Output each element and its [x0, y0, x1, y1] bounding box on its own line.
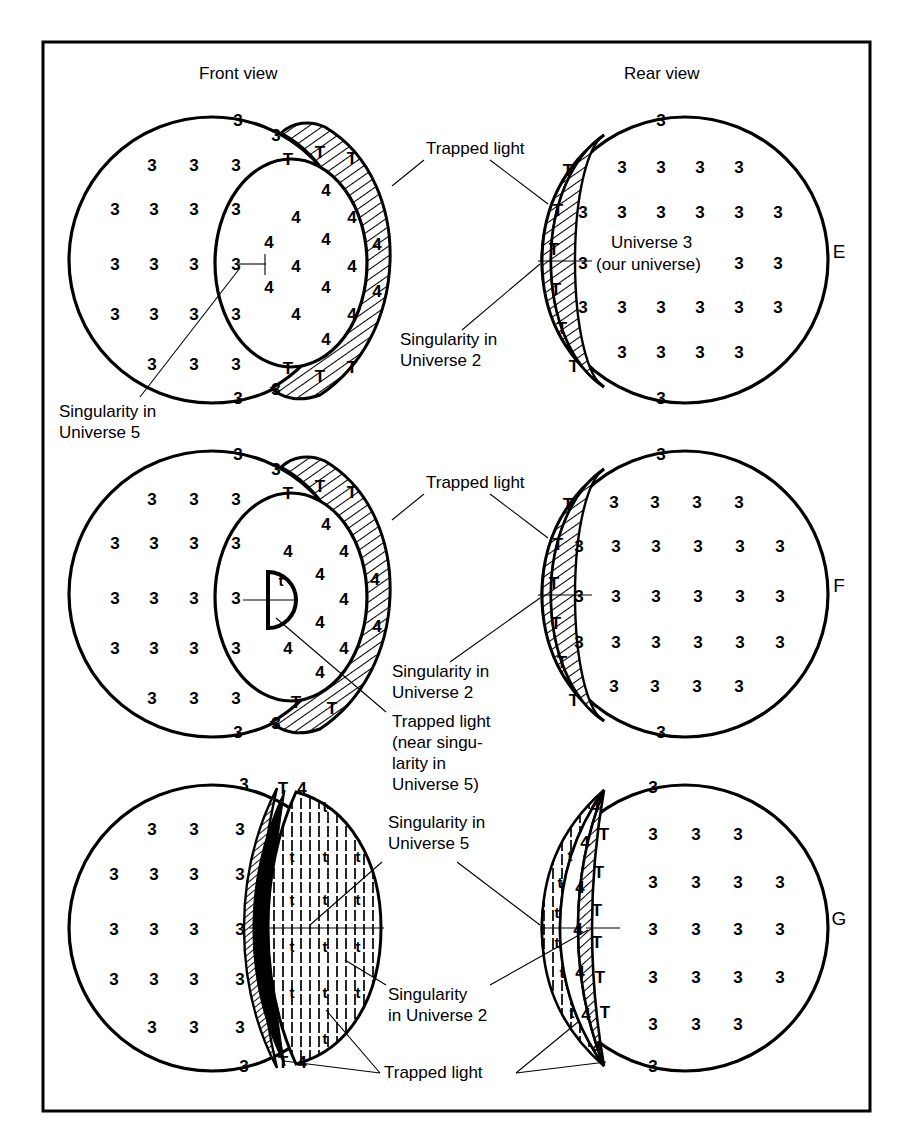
svg-text:3: 3: [574, 537, 583, 556]
panel-e-singularity-u5-label-l1: Singularity in: [59, 402, 156, 421]
svg-text:3: 3: [149, 970, 158, 989]
svg-text:t: t: [555, 904, 560, 921]
panel-e-singularity-u5-label-l2: Universe 5: [59, 423, 140, 442]
svg-text:3: 3: [609, 677, 618, 696]
panel-letter-f: F: [833, 575, 845, 596]
svg-text:3: 3: [189, 589, 198, 608]
svg-text:3: 3: [109, 970, 118, 989]
svg-text:4: 4: [321, 181, 331, 200]
svg-text:3: 3: [611, 587, 620, 606]
svg-text:3: 3: [231, 639, 240, 658]
svg-text:4: 4: [575, 878, 585, 897]
svg-text:3: 3: [231, 689, 240, 708]
panel-f-trapped-light-leader-right: [490, 494, 548, 538]
svg-text:t: t: [290, 891, 295, 908]
panel-f-trapped-near-label-l4: Universe 5): [392, 775, 479, 794]
svg-text:3: 3: [609, 493, 618, 512]
svg-text:T: T: [595, 968, 606, 987]
svg-text:3: 3: [109, 920, 118, 939]
svg-text:t: t: [290, 938, 295, 955]
svg-text:3: 3: [578, 298, 587, 317]
svg-text:3: 3: [695, 203, 704, 222]
svg-text:3: 3: [648, 920, 657, 939]
panel-letter-e: E: [833, 241, 846, 262]
svg-text:3: 3: [648, 1057, 657, 1076]
svg-text:T: T: [599, 825, 610, 844]
svg-text:3: 3: [189, 305, 198, 324]
panel-g-singularity-u2-label-l1: Singularity: [388, 985, 468, 1004]
svg-text:4: 4: [321, 278, 331, 297]
svg-text:3: 3: [147, 156, 156, 175]
svg-text:3: 3: [147, 490, 156, 509]
svg-text:t: t: [558, 874, 563, 891]
svg-text:3: 3: [189, 255, 198, 274]
svg-text:3: 3: [775, 537, 784, 556]
panel-e-singularity-u2-leader: [462, 264, 540, 330]
svg-text:4: 4: [372, 235, 382, 254]
svg-text:4: 4: [283, 639, 293, 658]
svg-text:3: 3: [656, 158, 665, 177]
panel-f-trapped-near-label-l1: Trapped light: [392, 712, 491, 731]
svg-text:3: 3: [574, 633, 583, 652]
svg-text:3: 3: [149, 534, 158, 553]
svg-text:3: 3: [734, 493, 743, 512]
panel-e: 3 3 3 3 3 3 3 3 3 3 3 3 3 3 3 3 3 3 3 3 …: [59, 111, 845, 442]
svg-text:3: 3: [147, 1018, 156, 1037]
panel-g-singularity-u5-leader-right: [457, 862, 540, 925]
panel-f-singularity-u2-leader: [450, 598, 540, 662]
svg-text:3: 3: [692, 677, 701, 696]
svg-text:3: 3: [691, 873, 700, 892]
svg-text:3: 3: [656, 343, 665, 362]
svg-text:T: T: [600, 1003, 611, 1022]
svg-text:4: 4: [347, 257, 357, 276]
svg-text:3: 3: [733, 968, 742, 987]
svg-text:3: 3: [233, 111, 242, 130]
svg-text:3: 3: [650, 493, 659, 512]
svg-text:3: 3: [239, 1057, 248, 1076]
svg-text:4: 4: [291, 208, 301, 227]
svg-text:3: 3: [733, 825, 742, 844]
svg-text:T: T: [551, 614, 562, 633]
panel-f-singularity-u2-label-l1: Singularity in: [392, 662, 489, 681]
svg-text:4: 4: [264, 233, 274, 252]
svg-text:4: 4: [347, 305, 357, 324]
svg-text:3: 3: [733, 873, 742, 892]
svg-text:T: T: [315, 477, 326, 496]
svg-text:3: 3: [271, 460, 280, 479]
svg-text:4: 4: [372, 282, 382, 301]
svg-text:T: T: [592, 933, 603, 952]
svg-text:T: T: [553, 535, 564, 554]
svg-text:3: 3: [189, 920, 198, 939]
svg-text:3: 3: [110, 639, 119, 658]
panel-f-trapped-near-label-l2: (near singu-: [392, 733, 483, 752]
svg-text:3: 3: [189, 355, 198, 374]
svg-text:3: 3: [656, 445, 665, 464]
svg-text:4: 4: [581, 1005, 591, 1024]
svg-text:3: 3: [578, 254, 587, 273]
svg-text:4: 4: [573, 920, 583, 939]
panel-e-singularity-u2-label-l2: Universe 2: [400, 351, 481, 370]
svg-text:3: 3: [189, 490, 198, 509]
svg-text:T: T: [551, 280, 562, 299]
svg-text:t: t: [279, 572, 284, 589]
svg-text:t: t: [323, 1030, 328, 1047]
svg-text:3: 3: [149, 639, 158, 658]
svg-text:t: t: [290, 848, 295, 865]
svg-text:4: 4: [592, 1038, 602, 1057]
svg-text:3: 3: [611, 537, 620, 556]
panel-f: t 3 3 3 3 3 3 3 3 3 3 3 3 3 3 3 3 3 3 3 …: [69, 445, 845, 794]
svg-text:3: 3: [651, 587, 660, 606]
svg-text:4: 4: [291, 305, 301, 324]
svg-text:3: 3: [648, 825, 657, 844]
svg-text:3: 3: [231, 355, 240, 374]
svg-text:3: 3: [775, 873, 784, 892]
svg-text:T: T: [569, 357, 580, 376]
panel-f-trapped-near-label-l3: larity in: [392, 754, 446, 773]
svg-text:3: 3: [235, 865, 244, 884]
svg-text:3: 3: [231, 200, 240, 219]
svg-text:3: 3: [734, 298, 743, 317]
svg-text:3: 3: [734, 343, 743, 362]
svg-text:3: 3: [693, 587, 702, 606]
svg-text:t: t: [356, 938, 361, 955]
svg-text:3: 3: [149, 255, 158, 274]
